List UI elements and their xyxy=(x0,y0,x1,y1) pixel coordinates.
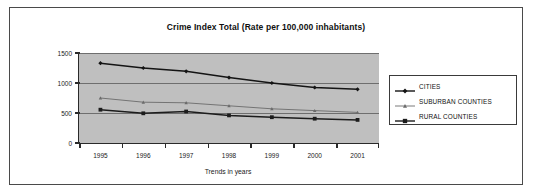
data-point-marker xyxy=(313,85,317,89)
x-axis-tick xyxy=(79,143,81,148)
legend-item-cities[interactable]: CITIES xyxy=(394,80,441,93)
x-axis-tick-label: 1995 xyxy=(93,152,107,159)
x-axis-tick-label: 1997 xyxy=(179,152,193,159)
data-point-marker xyxy=(98,61,102,65)
legend-item-suburban-counties[interactable]: SUBURBAN COUNTIES xyxy=(394,95,492,108)
data-point-marker xyxy=(99,108,103,112)
legend-item-label: RURAL COUNTIES xyxy=(419,113,477,120)
x-axis-tick-label: 1999 xyxy=(265,152,279,159)
x-axis-tick xyxy=(336,143,338,148)
x-axis-tick xyxy=(378,143,380,148)
series-layer xyxy=(79,53,379,143)
legend-item-label: CITIES xyxy=(419,83,441,90)
data-point-marker xyxy=(313,117,317,121)
x-axis-tick-label: 1996 xyxy=(136,152,150,159)
series-cities xyxy=(98,61,359,91)
data-point-marker xyxy=(403,118,407,122)
y-axis-tick-label: 500 xyxy=(61,110,72,117)
data-point-marker xyxy=(356,118,360,122)
square-marker-icon xyxy=(394,112,416,122)
data-point-marker xyxy=(141,111,145,115)
data-point-marker xyxy=(227,76,231,80)
chart-figure: Crime Index Total (Rate per 100,000 inha… xyxy=(0,0,534,194)
series-rural-counties xyxy=(99,108,360,122)
y-axis-tick-label: 0 xyxy=(68,140,72,147)
x-axis-tick xyxy=(250,143,252,148)
x-axis-tick-label: 2001 xyxy=(350,152,364,159)
data-point-marker xyxy=(270,115,274,119)
x-axis-tick xyxy=(293,143,295,148)
data-point-marker xyxy=(355,87,359,91)
data-point-marker xyxy=(270,81,274,85)
data-point-marker xyxy=(141,66,145,70)
legend-item-label: SUBURBAN COUNTIES xyxy=(419,98,492,105)
y-axis-tick-label: 1500 xyxy=(58,50,72,57)
x-axis-tick xyxy=(122,143,124,148)
diamond-marker-icon xyxy=(394,82,416,92)
x-axis-title: Trends in years xyxy=(78,168,378,175)
data-point-marker xyxy=(403,88,408,93)
triangle-marker-icon xyxy=(394,97,416,107)
chart-frame: Crime Index Total (Rate per 100,000 inha… xyxy=(9,7,523,185)
x-axis-tick-label: 1998 xyxy=(222,152,236,159)
legend-item-rural-counties[interactable]: RURAL COUNTIES xyxy=(394,110,477,123)
x-axis-tick-label: 2000 xyxy=(307,152,321,159)
chart-title: Crime Index Total (Rate per 100,000 inha… xyxy=(10,22,522,32)
x-axis-tick xyxy=(208,143,210,148)
x-axis-tick xyxy=(165,143,167,148)
chart-legend: CITIESSUBURBAN COUNTIESRURAL COUNTIES xyxy=(389,75,517,125)
data-point-marker xyxy=(184,69,188,73)
y-axis-tick-label: 1000 xyxy=(58,80,72,87)
plot-area: 050010001500 199519961997199819992000200… xyxy=(78,53,379,144)
data-point-marker xyxy=(227,114,231,118)
data-point-marker xyxy=(184,110,188,114)
series-suburban-counties xyxy=(99,96,360,114)
